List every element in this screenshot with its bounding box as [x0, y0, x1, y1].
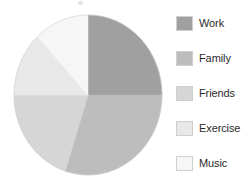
chart-legend: Work Family Friends Exercise Music	[176, 6, 242, 186]
legend-swatch-exercise	[176, 121, 193, 136]
legend-item-work[interactable]: Work	[176, 12, 242, 34]
artifact-speck	[78, 1, 83, 5]
pie-chart-figure: Work Family Friends Exercise Music	[0, 0, 242, 187]
legend-swatch-work	[176, 16, 193, 31]
legend-label-family: Family	[199, 52, 231, 64]
pie-plot-area	[6, 12, 170, 178]
legend-label-work: Work	[199, 17, 224, 29]
legend-item-music[interactable]: Music	[176, 152, 242, 174]
legend-item-family[interactable]: Family	[176, 47, 242, 69]
legend-label-exercise: Exercise	[199, 122, 240, 134]
legend-item-exercise[interactable]: Exercise	[176, 117, 242, 139]
legend-swatch-family	[176, 51, 193, 66]
legend-swatch-music	[176, 156, 193, 171]
pie-slice-group	[14, 15, 162, 175]
pie-svg	[6, 12, 170, 178]
legend-swatch-friends	[176, 86, 193, 101]
legend-item-friends[interactable]: Friends	[176, 82, 242, 104]
pie-slice-work[interactable]	[88, 15, 162, 95]
legend-label-friends: Friends	[199, 87, 235, 99]
legend-label-music: Music	[199, 157, 227, 169]
